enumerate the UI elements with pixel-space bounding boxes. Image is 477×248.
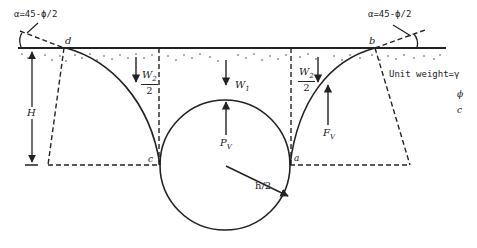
left-angle-pointer [27, 23, 38, 33]
right-angle-label: α=45-ϕ/2 [368, 10, 411, 19]
diagram-canvas [0, 0, 477, 248]
depth-label: H [27, 107, 36, 119]
left-wedge-extension [20, 31, 64, 48]
w1-label: W1 [235, 80, 250, 93]
right-outer-boundary [375, 48, 410, 165]
cohesion-label: c [457, 106, 462, 115]
w2-right-label: W2 2 [298, 67, 315, 93]
left-angle-label: α=45-ϕ/2 [14, 10, 57, 19]
right-angle-pointer [393, 25, 411, 36]
pv-label: PV [220, 138, 232, 151]
point-a-label: a [294, 154, 299, 163]
radius-label: h/2 [255, 181, 271, 191]
point-b-label: b [369, 36, 375, 46]
point-d-label: d [65, 36, 71, 46]
right-angle-arc [414, 34, 418, 48]
pipe-circle [160, 100, 290, 230]
left-outer-boundary [48, 48, 64, 165]
point-c-label: c [148, 155, 153, 164]
unit-weight-label: Unit weight=γ [389, 70, 459, 79]
left-slip-surface [66, 48, 160, 165]
w2-left-label: W2 2 [141, 70, 158, 96]
fv-label: FV [323, 128, 335, 141]
left-angle-arc [20, 33, 22, 47]
friction-angle-label: ϕ [457, 90, 463, 99]
